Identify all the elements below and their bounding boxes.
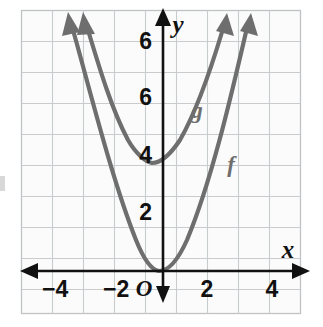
curve-label-g: g [190, 98, 203, 123]
y-axis-name: y [169, 11, 184, 38]
plot-canvas: 6 6 4 2 −4 −2 2 4 O y x g f [0, 0, 323, 327]
y-tick-label-2: 2 [139, 199, 152, 225]
graph-figure: 6 6 4 2 −4 −2 2 4 O y x g f [0, 0, 323, 327]
x-axis-name: x [281, 236, 295, 263]
x-tick-label-neg4: −4 [42, 276, 68, 302]
page-margin-mark [0, 176, 5, 191]
origin-label: O [136, 276, 153, 301]
x-tick-label-pos2: 2 [201, 276, 214, 302]
y-tick-label-top: 6 [139, 28, 152, 54]
y-tick-label-6: 6 [139, 84, 152, 110]
x-tick-label-neg2: −2 [103, 276, 129, 302]
y-tick-label-4: 4 [139, 142, 152, 168]
x-tick-label-pos4: 4 [266, 276, 279, 302]
